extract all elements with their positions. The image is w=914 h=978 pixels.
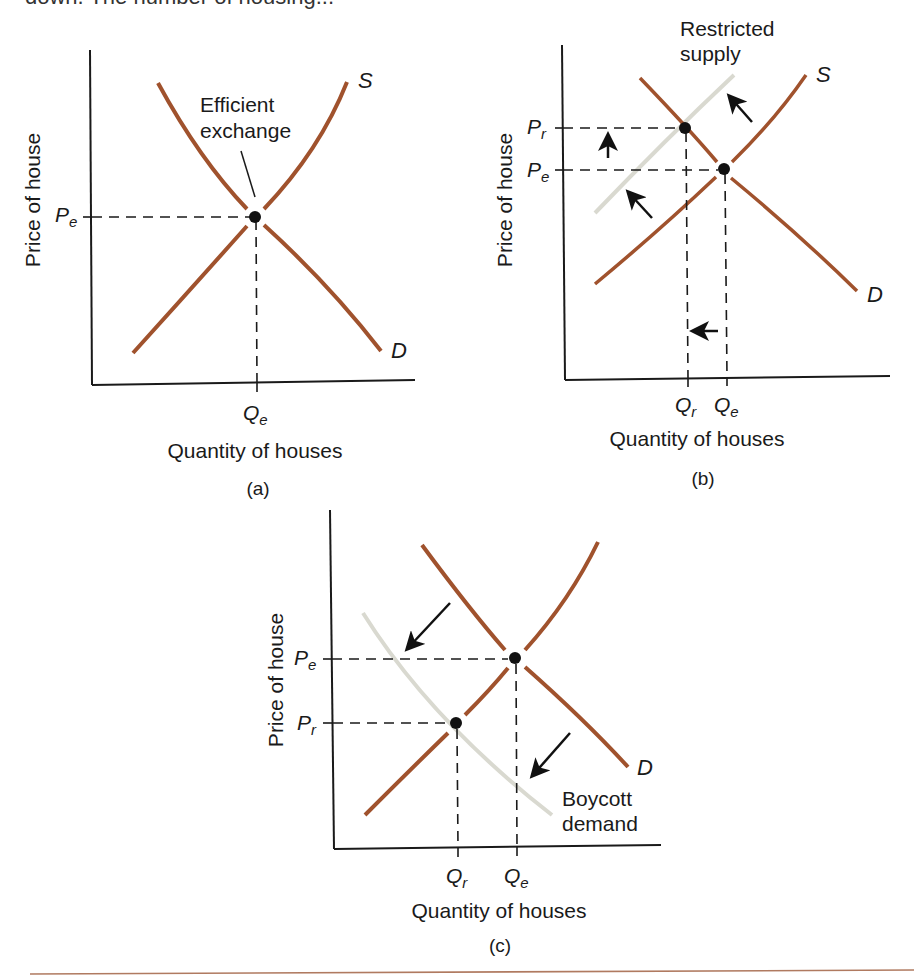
panel-label: (b) xyxy=(691,468,714,489)
original-equilibrium-point xyxy=(718,163,730,175)
annotation-pointer xyxy=(241,151,255,197)
restricted-equilibrium-point xyxy=(679,122,691,134)
demand-curve-lower xyxy=(731,178,857,291)
quantity-label-qr: Qr xyxy=(446,864,468,891)
qe-guide xyxy=(256,220,257,383)
demand-shift-arrow-icon xyxy=(408,603,450,648)
y-axis xyxy=(562,45,565,380)
supply-label: S xyxy=(816,62,831,87)
annotation-line1: Boycott xyxy=(562,787,632,810)
x-axis-title: Quantity of houses xyxy=(411,899,586,922)
cut-off-header-text: down. The number of housing... xyxy=(25,0,334,9)
quantity-label-qr: Qr xyxy=(675,393,697,420)
economics-figure: down. The number of housing... Efficient… xyxy=(0,0,914,978)
panel-b: Restricted supply S D Pr Pe Qr Qe Price … xyxy=(493,17,890,489)
restricted-supply-curve xyxy=(595,75,734,213)
panel-a: Efficient exchange S D Pe Qe Price of ho… xyxy=(21,50,415,499)
y-axis-title: Price of house xyxy=(493,133,516,267)
demand-label: D xyxy=(867,282,883,307)
price-label-pe: Pe xyxy=(527,158,549,185)
y-axis xyxy=(330,510,334,849)
supply-curve-lower xyxy=(133,226,247,353)
demand-label: D xyxy=(637,755,653,780)
y-axis-title: Price of house xyxy=(264,613,287,747)
supply-label: S xyxy=(358,68,373,93)
quantity-label-qe: Qe xyxy=(243,401,268,428)
quantity-label-qe: Qe xyxy=(504,864,529,891)
panel-label: (a) xyxy=(246,478,269,499)
panel-label: (c) xyxy=(489,935,511,956)
x-axis xyxy=(334,845,661,849)
annotation-line1: Efficient xyxy=(200,93,274,116)
supply-shift-arrow-icon xyxy=(629,193,652,218)
demand-label: D xyxy=(391,338,407,363)
supply-curve-upper xyxy=(525,542,598,650)
supply-curve-middle xyxy=(465,668,508,715)
price-label-pe: Pe xyxy=(294,646,316,673)
panel-c: Boycott demand D Pe Pr Qr Qe Price of ho… xyxy=(264,510,661,956)
equilibrium-point xyxy=(249,211,261,223)
price-label-pr: Pr xyxy=(297,711,317,738)
annotation-line1: Restricted xyxy=(680,17,775,40)
x-axis xyxy=(92,380,415,385)
original-equilibrium-point xyxy=(509,652,521,664)
annotation-line2: demand xyxy=(562,812,638,835)
supply-curve-lower xyxy=(365,733,448,815)
qe-guide xyxy=(516,664,517,846)
supply-shift-arrow-icon xyxy=(730,97,752,122)
quantity-label-qe: Qe xyxy=(714,393,739,420)
demand-curve xyxy=(640,78,717,162)
price-label-pr: Pr xyxy=(527,115,547,142)
boycott-equilibrium-point xyxy=(450,717,462,729)
x-axis-title: Quantity of houses xyxy=(167,439,342,462)
annotation-line2: supply xyxy=(680,42,741,65)
price-label-pe: Pe xyxy=(55,203,77,230)
qr-guide xyxy=(457,729,458,847)
annotation-line2: exchange xyxy=(200,119,291,142)
demand-curve xyxy=(422,545,505,650)
demand-curve-lower xyxy=(264,225,381,351)
supply-curve-upper xyxy=(732,75,806,162)
qr-guide xyxy=(686,132,688,378)
bottom-separator xyxy=(30,970,914,974)
y-axis-title: Price of house xyxy=(21,133,44,267)
x-axis-title: Quantity of houses xyxy=(609,427,784,450)
qe-guide xyxy=(725,174,727,377)
demand-curve-lower xyxy=(525,667,628,767)
demand-shift-arrow-icon xyxy=(533,733,570,775)
supply-curve-upper xyxy=(264,82,347,209)
